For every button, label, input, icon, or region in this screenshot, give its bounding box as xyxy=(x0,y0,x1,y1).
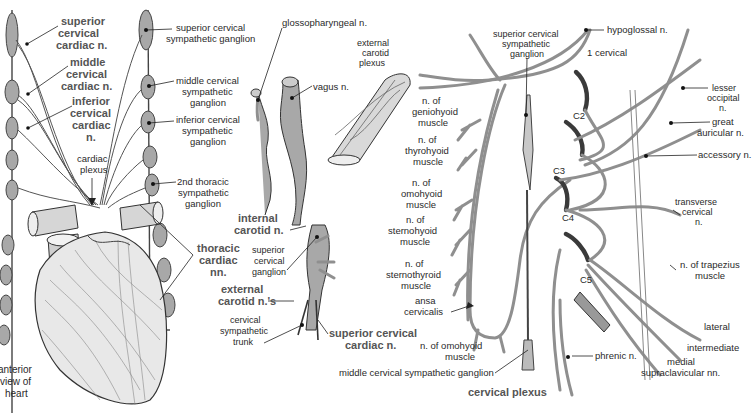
label-c3: C3 xyxy=(553,165,565,176)
caption-cervical-plexus: cervical plexus xyxy=(468,386,547,398)
label-n-of-geniohyoid-muscle: n. of geniohyoid muscle xyxy=(412,95,461,128)
label-c5: C5 xyxy=(580,274,592,285)
label-inferior-cervical-cardiac-n: inferior cervical cardiac n. xyxy=(70,95,114,143)
heart-figure: superior cervical cardiac n. middle cerv… xyxy=(0,10,255,413)
label-medial-supraclavicular-nn: medial supraclavicular nn. xyxy=(641,356,720,378)
label-intermediate: intermediate xyxy=(687,342,739,353)
carotid-figure: glossopharyngeal n. external carotid ple… xyxy=(218,17,420,351)
label-n-of-omohyoid-muscle: n. of omohyoid muscle xyxy=(401,177,445,210)
label-c4: C4 xyxy=(562,212,574,223)
label-n-of-trapezius-muscle: n. of trapezius muscle xyxy=(680,259,742,281)
label-transverse-cervical-n: transverse cervical n. xyxy=(675,197,720,227)
label-n-of-sternohyoid-muscle: n. of sternohyoid muscle xyxy=(388,214,440,247)
label-2nd-thoracic-sympathetic-ganglion: 2nd thoracic sympathetic ganglion xyxy=(177,176,231,209)
label-n-of-sternothyroid-muscle: n. of sternothyroid muscle xyxy=(386,258,444,291)
label-hypoglossal-n: hypoglossal n. xyxy=(607,24,668,35)
label-superior-cervical-sympathetic-ganglion: superior cervical sympathetic ganglion xyxy=(166,22,255,44)
left-sympathetic-chain xyxy=(0,10,19,413)
label-great-auricular-n: great auricular n. xyxy=(697,116,744,138)
label-lateral: lateral xyxy=(704,321,730,332)
heart xyxy=(35,232,166,405)
label-lesser-occipital-n: lesser occipital n. xyxy=(707,83,742,113)
anatomy-illustration: superior cervical cardiac n. middle cerv… xyxy=(0,0,756,413)
caption-anterior-view-of-heart: anterior view of heart xyxy=(0,364,35,399)
label-thoracic-cardiac-nn: thoracic cardiac nn. xyxy=(197,242,243,278)
label-superior-cervical-sympathetic-ganglion-plexus: superior cervical sympathetic ganglion xyxy=(493,29,561,59)
label-middle-cervical-cardiac-n: middle cervical cardiac n. xyxy=(61,56,112,92)
label-superior-cervical-cardiac-n-carotid: superior cervical cardiac n. xyxy=(329,327,420,351)
label-external-carotid-nns: external carotid n.'s xyxy=(218,283,276,307)
label-internal-carotid-n: internal carotid n. xyxy=(234,212,284,236)
label-superior-cervical-ganglion: superior cervical ganglion xyxy=(252,245,287,277)
label-c2: C2 xyxy=(573,110,585,121)
label-cervical-sympathetic-trunk: cervical sympathetic trunk xyxy=(220,315,271,347)
label-n-of-omohyoid-muscle-inferior: n. of omohyoid muscle xyxy=(420,340,485,362)
label-n-of-thyrohyoid-muscle: n. of thyrohyoid muscle xyxy=(405,134,451,167)
label-ansa-cervicalis: ansa cervicalis xyxy=(404,295,443,317)
label-phrenic-n: phrenic n. xyxy=(595,350,637,361)
label-middle-cervical-sympathetic-ganglion-plexus: middle cervical sympathetic ganglion xyxy=(339,367,494,378)
label-vagus-n: vagus n. xyxy=(313,81,349,92)
label-superior-cervical-cardiac-n: superior cervical cardiac n. xyxy=(56,15,108,51)
label-middle-cervical-sympathetic-ganglion: middle cervical sympathetic ganglion xyxy=(176,75,241,108)
label-cardiac-plexus: cardiac plexus xyxy=(77,153,110,175)
label-1-cervical: 1 cervical xyxy=(587,47,627,58)
label-inferior-cervical-sympathetic-ganglion: inferior cervical sympathetic ganglion xyxy=(176,114,243,147)
label-external-carotid-plexus: external carotid plexus xyxy=(357,38,392,68)
label-glossopharyngeal-n: glossopharyngeal n. xyxy=(282,17,367,28)
label-accessory-n: accessory n. xyxy=(698,149,751,160)
